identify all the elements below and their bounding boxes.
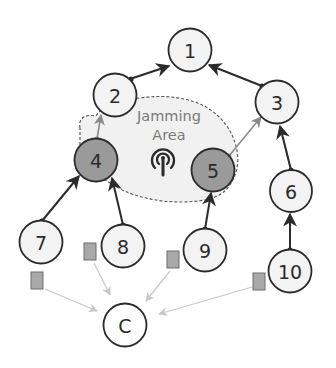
node-6: 6 bbox=[270, 170, 312, 212]
jamming-area-label-line1: Jamming bbox=[136, 108, 201, 124]
node-label-7: 7 bbox=[35, 232, 47, 254]
node-4: 4 bbox=[75, 139, 118, 182]
node-9: 9 bbox=[184, 229, 227, 272]
node-label-5: 5 bbox=[207, 160, 219, 182]
report-edges bbox=[45, 263, 252, 314]
packet-10 bbox=[253, 273, 265, 290]
node-3: 3 bbox=[256, 81, 299, 124]
jamming-area-label-line2: Area bbox=[152, 127, 185, 143]
node-1: 1 bbox=[169, 29, 212, 72]
report-edge-9-c bbox=[146, 271, 170, 301]
report-edge-8-c bbox=[94, 263, 110, 295]
edge-6-3 bbox=[280, 126, 291, 170]
node-label-2: 2 bbox=[109, 85, 121, 107]
report-edge-10-c bbox=[159, 287, 252, 314]
node-label-9: 9 bbox=[199, 240, 211, 262]
network-diagram: Jamming Area bbox=[0, 0, 336, 368]
node-8: 8 bbox=[102, 225, 145, 268]
packet-7 bbox=[31, 272, 43, 289]
node-2: 2 bbox=[94, 74, 137, 117]
node-label-1: 1 bbox=[184, 40, 196, 62]
node-label-10: 10 bbox=[278, 261, 302, 283]
node-c: C bbox=[104, 304, 147, 347]
edge-7-4 bbox=[42, 176, 79, 221]
node-label-6: 6 bbox=[285, 181, 297, 203]
node-7: 7 bbox=[20, 221, 63, 264]
edge-2-1 bbox=[130, 66, 169, 79]
edge-5-3 bbox=[229, 117, 261, 156]
node-5: 5 bbox=[192, 149, 235, 192]
node-label-c: C bbox=[118, 315, 131, 337]
node-label-8: 8 bbox=[117, 236, 129, 258]
packet-8 bbox=[84, 243, 96, 260]
node-label-4: 4 bbox=[90, 150, 102, 172]
packets bbox=[31, 243, 265, 290]
report-edge-7-c bbox=[45, 289, 97, 311]
node-10: 10 bbox=[269, 250, 312, 293]
node-label-3: 3 bbox=[271, 92, 283, 114]
packet-9 bbox=[167, 251, 179, 268]
edge-3-1 bbox=[209, 65, 262, 86]
